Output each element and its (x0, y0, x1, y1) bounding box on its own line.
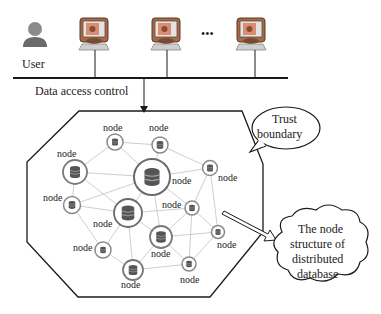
distributed-db-diagram: User ••• Data access control Trust bound… (0, 0, 381, 314)
node-label: node (162, 199, 182, 210)
ellipsis: ••• (201, 27, 214, 41)
db-node (123, 260, 143, 280)
node-label: node (218, 172, 238, 183)
data-access-label: Data access control (35, 84, 129, 98)
node-label: node (217, 239, 237, 250)
db-node (95, 242, 111, 258)
user-label: User (22, 57, 45, 71)
db-node (64, 197, 81, 214)
trust-boundary-line2: boundary (257, 127, 302, 141)
monitor-icon (236, 18, 266, 50)
db-node (152, 137, 168, 153)
node-label: node (43, 192, 63, 203)
node-label: node (73, 242, 93, 253)
callout-line1: The node (298, 222, 343, 236)
db-node (134, 159, 170, 195)
callout-line4: database (297, 267, 338, 281)
arrow-right-icon (222, 211, 276, 241)
db-node (63, 160, 87, 184)
db-node (150, 226, 172, 248)
db-node (182, 257, 196, 271)
db-node (212, 226, 225, 239)
node-label: node (57, 148, 77, 159)
db-node (107, 134, 123, 150)
callout-line2: structure of (290, 237, 345, 251)
node-label: node (93, 218, 113, 229)
monitor-icon (151, 18, 181, 50)
trust-boundary-line1: Trust (272, 112, 298, 126)
arrow-down-icon (140, 106, 148, 113)
db-node (114, 199, 142, 227)
node-label: node (151, 248, 171, 259)
monitor-icon (79, 18, 109, 50)
network-bus (13, 50, 288, 108)
node-label: node (180, 274, 200, 285)
node-label: node (172, 175, 192, 186)
user-icon (23, 22, 47, 47)
node-label: node (103, 122, 123, 133)
node-label: node (121, 279, 141, 290)
node-label: node (149, 122, 169, 133)
db-node (185, 201, 199, 215)
db-node (203, 161, 218, 176)
callout-line3: distributed (292, 252, 343, 266)
